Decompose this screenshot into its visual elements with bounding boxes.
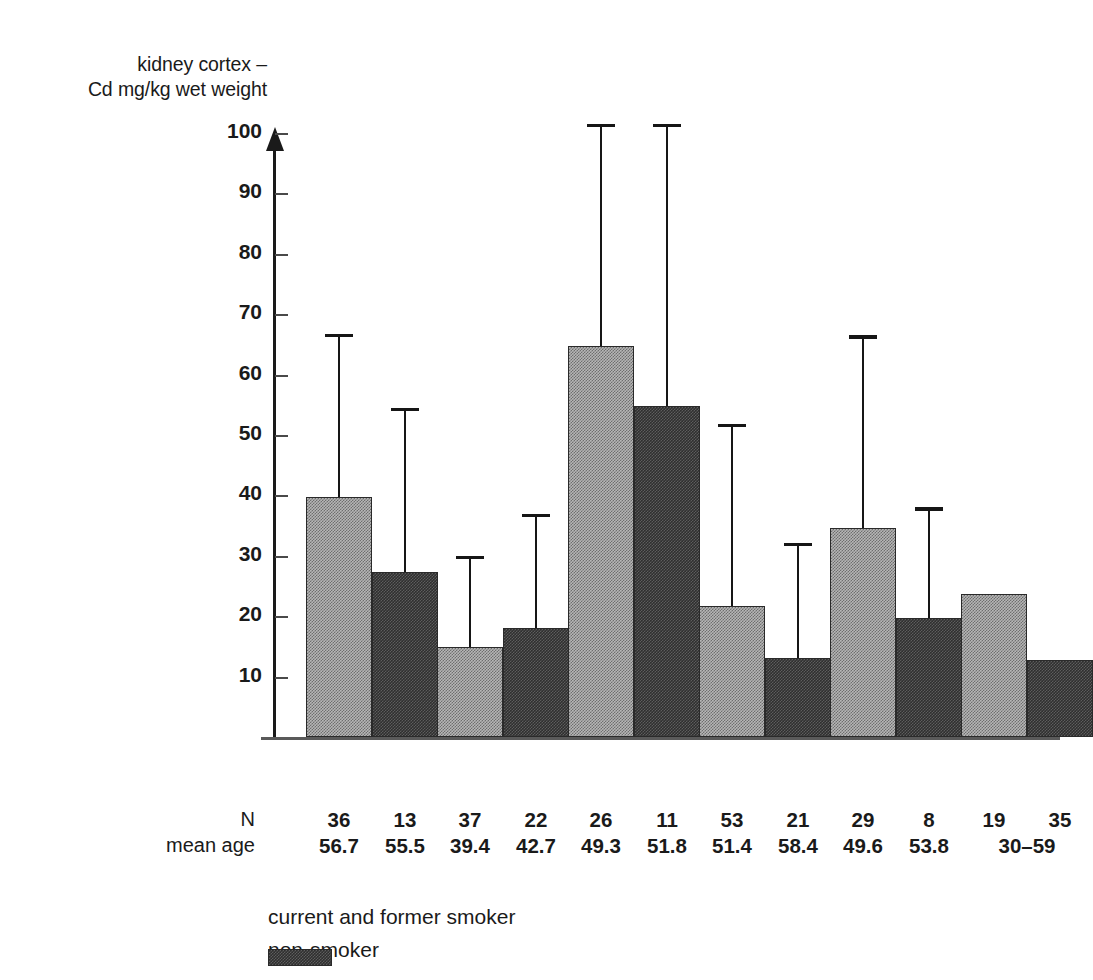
stat-mean-age-span: 30–59 (967, 834, 1087, 858)
y-tick-20: 20 (275, 616, 288, 618)
y-tick-label-30: 30 (239, 543, 262, 564)
plot-area: 100908070605040302010 (273, 120, 1060, 737)
y-tick-label-50: 50 (239, 422, 262, 443)
stats-table: N mean age 361356.755.5372239.442.726114… (0, 808, 1093, 868)
bar (961, 594, 1027, 737)
y-tick-label-60: 60 (239, 362, 262, 383)
error-bar-cap (718, 424, 746, 427)
error-bar-cap (587, 124, 615, 127)
stat-n-dark: 35 (1020, 808, 1093, 832)
error-bar (634, 124, 700, 406)
bar (634, 406, 700, 737)
error-bar-cap (915, 507, 943, 510)
bar (765, 658, 831, 737)
error-bar-stem (338, 334, 341, 497)
bar (306, 497, 372, 737)
y-tick-label-70: 70 (239, 301, 262, 322)
legend-item-current-and-former-smoker: current and former smoker (268, 900, 515, 933)
stats-row-label-mean-age: mean age (100, 834, 255, 857)
y-tick-90: 90 (275, 193, 288, 195)
bar (830, 528, 896, 737)
bar (503, 628, 569, 737)
y-tick-70: 70 (275, 314, 288, 316)
y-tick-80: 80 (275, 254, 288, 256)
error-bar-cap (391, 408, 419, 411)
error-bar-cap (325, 334, 353, 337)
error-bar-stem (535, 514, 538, 629)
error-bar (568, 124, 634, 346)
error-bar-cap (653, 124, 681, 127)
error-bar (896, 507, 962, 618)
error-bar (765, 543, 831, 659)
error-bar-stem (469, 556, 472, 647)
error-bar-cap (456, 556, 484, 559)
y-tick-50: 50 (275, 435, 288, 437)
error-bar-stem (404, 408, 407, 572)
y-axis-title: kidney cortex – Cd mg/kg wet weight (62, 52, 267, 102)
bar (437, 647, 503, 737)
error-bar-stem (600, 124, 603, 346)
y-tick-40: 40 (275, 495, 288, 497)
stats-row-label-n: N (100, 808, 255, 831)
y-tick-label-80: 80 (239, 241, 262, 262)
error-bar-stem (862, 335, 865, 528)
bar (1027, 660, 1093, 737)
bar (568, 346, 634, 737)
y-tick-label-90: 90 (239, 180, 262, 201)
y-tick-10: 10 (275, 677, 288, 679)
y-tick-30: 30 (275, 556, 288, 558)
error-bar-cap (784, 543, 812, 546)
legend-swatch-dark (268, 949, 332, 966)
error-bar-stem (928, 507, 931, 618)
error-bar-stem (666, 124, 669, 406)
y-tick-100: 100 (275, 133, 288, 135)
error-bar (306, 334, 372, 497)
error-bar (372, 408, 438, 572)
error-bar-stem (797, 543, 800, 659)
legend: current and former smoker non-smoker (268, 900, 515, 966)
error-bar (699, 424, 765, 606)
error-bar (830, 335, 896, 528)
y-tick-label-20: 20 (239, 603, 262, 624)
y-tick-60: 60 (275, 375, 288, 377)
y-tick-label-10: 10 (239, 664, 262, 685)
error-bar (503, 514, 569, 629)
error-bar-stem (731, 424, 734, 606)
legend-item-non-smoker: non-smoker (268, 933, 515, 966)
bar (372, 572, 438, 737)
stat-mean-age-dark: 53.8 (884, 834, 974, 858)
bar (699, 606, 765, 737)
y-tick-label-100: 100 (227, 120, 262, 141)
y-tick-label-40: 40 (239, 482, 262, 503)
error-bar (437, 556, 503, 647)
x-axis-line (261, 737, 1060, 740)
bar (896, 618, 962, 737)
error-bar-cap (849, 335, 877, 338)
chart-figure: kidney cortex – Cd mg/kg wet weight 1009… (0, 0, 1093, 980)
error-bar-cap (522, 514, 550, 517)
legend-label-current-and-former-smoker: current and former smoker (268, 906, 515, 927)
y-axis-arrow-icon (266, 127, 284, 151)
